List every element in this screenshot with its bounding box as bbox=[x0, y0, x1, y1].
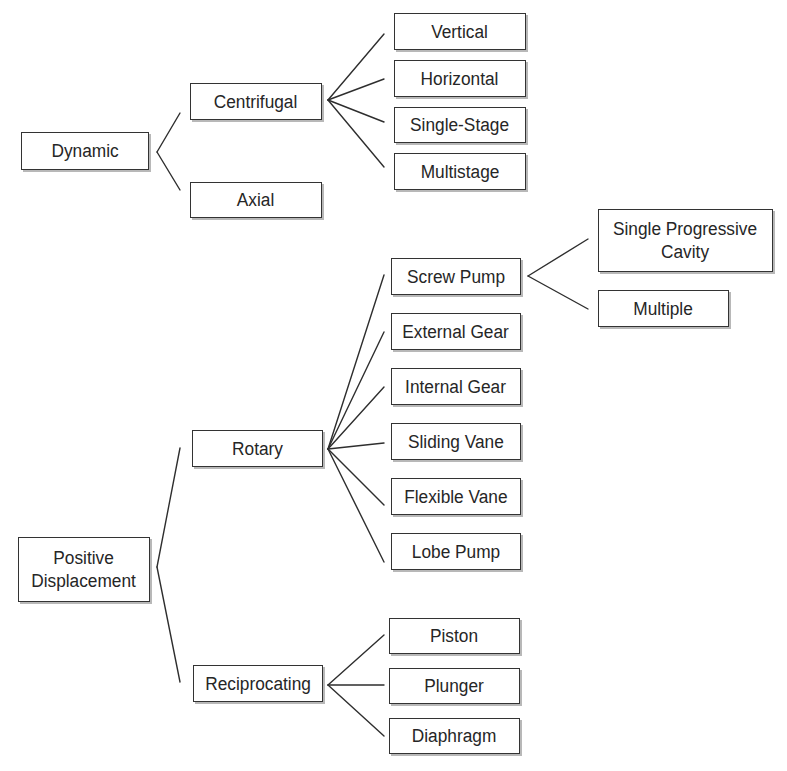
node-label: Multistage bbox=[421, 161, 500, 183]
node-screw-pump: Screw Pump bbox=[391, 258, 521, 295]
node-lobe-pump: Lobe Pump bbox=[391, 533, 521, 570]
node-axial: Axial bbox=[190, 182, 322, 218]
node-rotary: Rotary bbox=[192, 430, 323, 467]
connector-line-reciprocating bbox=[328, 685, 384, 736]
node-positive-displacement: Positive Displacement bbox=[18, 537, 150, 602]
node-label: Plunger bbox=[425, 675, 485, 697]
node-label: Dynamic bbox=[51, 140, 118, 162]
node-label: Flexible Vane bbox=[404, 486, 507, 508]
node-label: Sliding Vane bbox=[408, 431, 504, 453]
node-multiple: Multiple bbox=[598, 290, 729, 327]
node-label: Reciprocating bbox=[205, 673, 311, 695]
node-piston: Piston bbox=[389, 618, 520, 654]
connector-line-dynamic bbox=[157, 113, 180, 152]
node-flexible-vane: Flexible Vane bbox=[391, 478, 521, 515]
node-diaphragm: Diaphragm bbox=[389, 718, 520, 754]
connector-line-rotary bbox=[328, 449, 384, 562]
pump-classification-diagram: Dynamic Centrifugal Axial Vertical Horiz… bbox=[0, 0, 787, 771]
node-label: Axial bbox=[237, 189, 274, 211]
node-reciprocating: Reciprocating bbox=[193, 665, 323, 702]
node-label: Internal Gear bbox=[406, 376, 507, 398]
connector-line-centrifugal bbox=[328, 100, 384, 167]
node-label: Lobe Pump bbox=[412, 541, 500, 563]
node-label: Rotary bbox=[232, 438, 283, 460]
node-centrifugal: Centrifugal bbox=[190, 83, 322, 120]
node-horizontal: Horizontal bbox=[394, 60, 526, 97]
node-label: Single Progressive Cavity bbox=[613, 218, 757, 264]
node-label: Diaphragm bbox=[412, 725, 497, 747]
connector-line-dynamic bbox=[157, 152, 180, 190]
connector-line-reciprocating bbox=[328, 635, 384, 685]
connector-line-rotary bbox=[328, 387, 384, 449]
node-sliding-vane: Sliding Vane bbox=[391, 423, 521, 460]
node-label: Screw Pump bbox=[407, 266, 505, 288]
node-external-gear: External Gear bbox=[391, 313, 521, 350]
node-label: External Gear bbox=[403, 321, 510, 343]
node-vertical: Vertical bbox=[394, 13, 526, 50]
node-label: Positive Displacement bbox=[32, 547, 137, 593]
connector-line-positive_displacement bbox=[157, 448, 180, 567]
node-label: Single-Stage bbox=[411, 114, 510, 136]
node-single-stage: Single-Stage bbox=[394, 107, 526, 143]
connector-line-rotary bbox=[328, 443, 384, 449]
connector-line-rotary bbox=[328, 332, 384, 449]
node-label: Horizontal bbox=[421, 68, 499, 90]
node-plunger: Plunger bbox=[389, 668, 520, 704]
connector-line-rotary bbox=[328, 275, 384, 449]
connector-line-screw_pump bbox=[528, 239, 588, 276]
node-label: Multiple bbox=[634, 298, 694, 320]
connector-line-positive_displacement bbox=[157, 567, 180, 682]
connector-line-screw_pump bbox=[528, 276, 588, 309]
node-label: Centrifugal bbox=[214, 91, 298, 113]
node-dynamic: Dynamic bbox=[21, 132, 149, 170]
node-label: Vertical bbox=[432, 21, 489, 43]
node-internal-gear: Internal Gear bbox=[391, 368, 521, 405]
node-single-progressive-cavity: Single Progressive Cavity bbox=[598, 209, 773, 272]
node-multistage: Multistage bbox=[394, 153, 526, 190]
connector-line-rotary bbox=[328, 449, 384, 505]
node-label: Piston bbox=[430, 625, 478, 647]
